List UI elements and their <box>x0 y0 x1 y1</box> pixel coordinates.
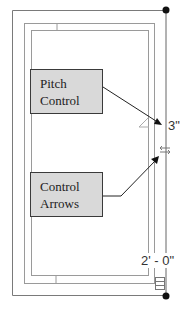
height-dimension-label[interactable]: 3" <box>168 118 180 133</box>
pitch-angle-icon <box>139 118 149 127</box>
control-arrows-icon[interactable] <box>160 146 170 154</box>
pitch-control-callout: Pitch Control <box>30 69 103 114</box>
callout-label-line1: Pitch <box>40 75 102 92</box>
callout-label-line2: Control <box>40 92 102 109</box>
callout-label-line2: Arrows <box>40 195 102 212</box>
endpoint-dot-top[interactable] <box>163 7 170 14</box>
pitch-control-leader <box>103 87 162 125</box>
endpoint-dot-bottom[interactable] <box>163 293 170 300</box>
control-arrows-callout: Control Arrows <box>30 172 103 217</box>
control-arrows-leader <box>103 156 159 196</box>
width-control-icon[interactable] <box>156 278 165 290</box>
callout-label-line1: Control <box>40 178 102 195</box>
width-dimension-label[interactable]: 2' - 0" <box>141 253 174 268</box>
wall-outline <box>25 24 155 284</box>
inner-wall-outline <box>32 31 149 276</box>
